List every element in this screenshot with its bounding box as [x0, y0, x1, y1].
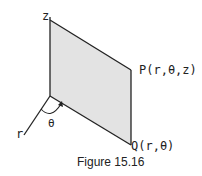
r-axis-line	[24, 96, 50, 135]
figure-caption: Figure 15.16	[77, 156, 144, 168]
half-plane	[50, 20, 131, 145]
p-point-label: P(r,θ,z)	[139, 64, 197, 76]
theta-label: θ	[48, 118, 55, 130]
r-axis-label: r	[16, 128, 23, 140]
q-point-label: Q(r,θ)	[131, 140, 174, 152]
z-axis-label: z	[42, 10, 49, 22]
